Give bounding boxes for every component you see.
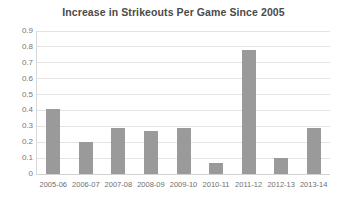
y-axis-tick-label: 0.3 [3,122,33,130]
bar [274,158,288,174]
gridline [37,31,330,32]
bar [177,128,191,174]
y-axis-tick-label: 0.1 [3,154,33,162]
x-axis-tick-label: 2011-12 [232,180,265,190]
gridline [37,46,330,47]
gridline [37,126,330,127]
bar [79,142,93,174]
y-axis-tick-label: 0.4 [3,106,33,114]
bar [144,131,158,174]
y-axis-tick-label: 0 [3,170,33,178]
x-axis-tick-label: 2009-10 [167,180,200,190]
x-axis-tick-label: 2007-08 [102,180,135,190]
y-axis-tick-label: 0.8 [3,43,33,51]
y-axis-tick-label: 0.6 [3,75,33,83]
y-axis-tick-labels: 0.90.80.70.60.50.40.30.20.10 [0,31,33,174]
x-axis-tick-label: 2013-14 [297,180,330,190]
gridline [37,62,330,63]
gridline [37,78,330,79]
y-axis-tick-label: 0.9 [3,27,33,35]
bar [111,128,125,174]
y-axis-tick-label: 0.2 [3,138,33,146]
x-axis-tick-label: 2006-07 [70,180,103,190]
x-axis-tick-label: 2005-06 [37,180,70,190]
bar-chart: Increase in Strikeouts Per Game Since 20… [0,0,347,204]
x-axis-tick-label: 2008-09 [135,180,168,190]
bar [46,109,60,174]
x-axis-tick-labels: 2005-062006-072007-082008-092009-102010-… [37,180,330,194]
bar [307,128,321,174]
y-axis-tick-label: 0.5 [3,91,33,99]
x-axis-tick-label: 2012-13 [265,180,298,190]
bar [209,163,223,174]
chart-title: Increase in Strikeouts Per Game Since 20… [0,6,347,18]
bar [242,50,256,174]
y-axis-tick-label: 0.7 [3,59,33,67]
x-axis-tick-label: 2010-11 [200,180,233,190]
plot-area [37,31,330,174]
gridline [37,94,330,95]
gridline [37,110,330,111]
